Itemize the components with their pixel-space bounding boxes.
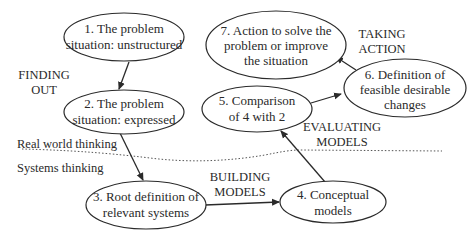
- node-7-line-2: problem or improve: [224, 38, 328, 53]
- edge-3-to-4: [205, 202, 279, 205]
- node-6-line-1: 6. Definition of: [365, 67, 446, 82]
- node-5-comparison: 5. Comparison of 4 with 2: [202, 86, 312, 132]
- node-7-line-1: 7. Action to solve the: [221, 23, 332, 38]
- node-6-feasible-changes: 6. Definition of feasible desirable chan…: [344, 59, 466, 117]
- real-world-thinking-label: Real world thinking: [17, 137, 118, 151]
- edge-2-to-3: [120, 133, 143, 180]
- node-1-line-2: situation: unstructured: [66, 37, 183, 52]
- building-models-line-2: MODELS: [214, 185, 265, 199]
- node-1-line-1: 1. The problem: [84, 21, 164, 36]
- node-6-line-2: feasible desirable: [360, 82, 451, 97]
- evaluating-models-line-2: MODELS: [316, 135, 367, 149]
- node-3-line-2: relevant systems: [103, 205, 189, 220]
- node-3-line-1: 3. Root definition of: [93, 189, 200, 204]
- node-5-line-2: of 4 with 2: [229, 109, 286, 124]
- building-models-line-1: BUILDING: [210, 170, 270, 184]
- phase-evaluating-models: EVALUATING MODELS: [303, 120, 381, 149]
- node-4-line-1: 4. Conceptual: [297, 187, 370, 202]
- edge-1-to-2: [119, 62, 129, 89]
- taking-action-line-2: ACTION: [358, 42, 405, 56]
- node-4-conceptual-models: 4. Conceptual models: [280, 181, 386, 223]
- node-2-problem-expressed: 2. The problem situation: expressed: [64, 90, 184, 134]
- node-5-line-1: 5. Comparison: [219, 93, 296, 108]
- node-4-line-2: models: [314, 203, 352, 218]
- soft-systems-methodology-diagram: 1. The problem situation: unstructured 2…: [0, 0, 473, 241]
- evaluating-models-line-1: EVALUATING: [303, 120, 381, 134]
- node-2-line-1: 2. The problem: [84, 96, 164, 111]
- phase-taking-action: TAKING ACTION: [358, 27, 405, 56]
- node-3-root-definition: 3. Root definition of relevant systems: [86, 181, 206, 229]
- edge-5-to-6: [311, 94, 341, 103]
- finding-out-line-2: OUT: [31, 83, 57, 97]
- taking-action-line-1: TAKING: [359, 27, 406, 41]
- node-1-problem-unstructured: 1. The problem situation: unstructured: [64, 13, 184, 61]
- node-7-action: 7. Action to solve the problem or improv…: [206, 11, 346, 79]
- node-7-line-3: the situation: [244, 53, 308, 68]
- node-6-line-3: changes: [384, 97, 426, 112]
- phase-finding-out: FINDING OUT: [18, 68, 69, 97]
- node-2-line-2: situation: expressed: [73, 112, 176, 127]
- finding-out-line-1: FINDING: [18, 68, 69, 82]
- systems-thinking-label: Systems thinking: [17, 161, 104, 175]
- phase-building-models: BUILDING MODELS: [210, 170, 270, 199]
